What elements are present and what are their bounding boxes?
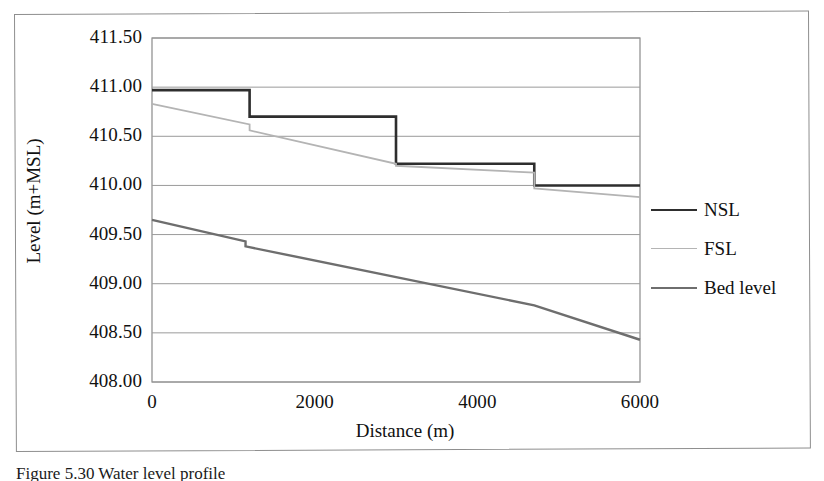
chart-legend: NSLFSLBed level [651, 190, 821, 307]
figure-root: 408.00408.50409.00409.50410.00410.50411.… [0, 0, 824, 481]
y-tick-label: 409.50 [56, 223, 142, 245]
y-axis-title: Level (m+MSL) [23, 111, 45, 291]
y-tick-label: 411.50 [56, 26, 142, 48]
y-tick-label: 408.00 [56, 370, 142, 392]
figure-caption: Figure 5.30 Water level profile [16, 464, 225, 481]
legend-item-fsl[interactable]: FSL [651, 229, 821, 268]
legend-swatch-icon [651, 287, 697, 289]
x-tick-label: 4000 [437, 391, 517, 413]
series-line-bed-level [152, 220, 640, 340]
y-tick-label: 408.50 [56, 321, 142, 343]
legend-item-label: FSL [704, 239, 737, 258]
legend-swatch-icon [651, 248, 697, 249]
legend-item-nsl[interactable]: NSL [651, 190, 821, 229]
series-line-nsl [152, 90, 640, 185]
legend-swatch-icon [651, 209, 697, 211]
x-axis-title: Distance (m) [280, 420, 530, 442]
x-tick-label: 6000 [600, 391, 680, 413]
legend-item-label: NSL [704, 200, 740, 219]
data-series-group [152, 90, 640, 340]
legend-item-bed-level[interactable]: Bed level [651, 268, 821, 307]
y-tick-label: 410.00 [56, 173, 142, 195]
y-tick-label: 410.50 [56, 124, 142, 146]
x-tick-label: 0 [112, 391, 192, 413]
x-tick-label: 2000 [275, 391, 355, 413]
legend-item-label: Bed level [704, 278, 776, 297]
y-tick-label: 409.00 [56, 272, 142, 294]
y-tick-label: 411.00 [56, 75, 142, 97]
